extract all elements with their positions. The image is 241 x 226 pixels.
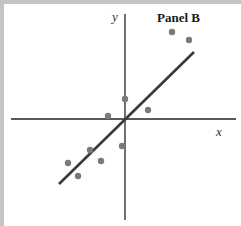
data-point [87,147,93,153]
x-axis-label: x [215,124,222,139]
data-point [169,29,175,35]
data-points [65,29,192,179]
data-point [98,158,104,164]
data-point [75,173,81,179]
scatter-plot: y x Panel B [0,0,241,226]
panel-title: Panel B [157,10,200,25]
regression-line [59,52,194,184]
data-point [186,37,192,43]
data-point [122,96,128,102]
data-point [65,160,71,166]
data-point [145,107,151,113]
data-point [105,113,111,119]
data-point [119,143,125,149]
y-axis-label: y [110,9,118,24]
